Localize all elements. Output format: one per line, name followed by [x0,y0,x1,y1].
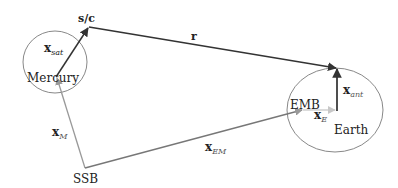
x-ant-label: xant [343,83,364,99]
x-em-sub: EM [211,147,227,156]
r-label: r [191,30,197,43]
diagram-canvas: s/c Mercury xsat r xM SSB xEM EMB xE xan… [0,0,398,188]
x-m-label: xM [52,125,68,141]
vector-r-arrow [89,27,336,68]
mercury-label: Mercury [27,71,79,85]
x-em-label: xEM [205,140,227,156]
ssb-label: SSB [73,172,98,186]
x-m-sub: M [58,132,68,141]
x-e-sub: E [320,115,327,124]
x-ant-sub: ant [350,90,364,99]
vector-x-em-arrow [85,110,302,168]
spacecraft-label: s/c [78,12,95,25]
earth-label: Earth [334,123,368,137]
vector-x-m-arrow [57,78,85,168]
x-sat-sub: sat [51,48,64,57]
x-sat-label: xsat [44,41,64,57]
